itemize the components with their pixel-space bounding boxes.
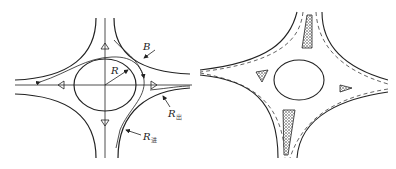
- label-r-exit: R出: [167, 108, 182, 121]
- central-island-right: [274, 60, 324, 100]
- splitter-island-north: [302, 15, 312, 48]
- curb-top-left-right: [200, 12, 297, 70]
- curb-top-left: [15, 18, 96, 80]
- curb-bottom-right-right: [297, 92, 388, 158]
- r-exit-pointer: [163, 96, 170, 107]
- curb-bottom-left-right: [200, 75, 278, 158]
- splitter-island-east: [340, 85, 352, 92]
- right-panel: [200, 12, 388, 158]
- label-b: B: [142, 41, 150, 52]
- splitter-island-south: [283, 110, 295, 155]
- label-r: R: [110, 65, 119, 76]
- curb-bottom-right: [118, 88, 190, 158]
- splitter-island-west: [256, 70, 268, 82]
- curb-top-right-right: [322, 12, 388, 80]
- roundabout-diagram: B R R出 R进: [0, 0, 396, 169]
- circulating-path: [40, 57, 144, 82]
- label-r-entry: R进: [142, 131, 157, 144]
- left-panel: [15, 18, 192, 158]
- r-entry-pointer: [126, 130, 141, 135]
